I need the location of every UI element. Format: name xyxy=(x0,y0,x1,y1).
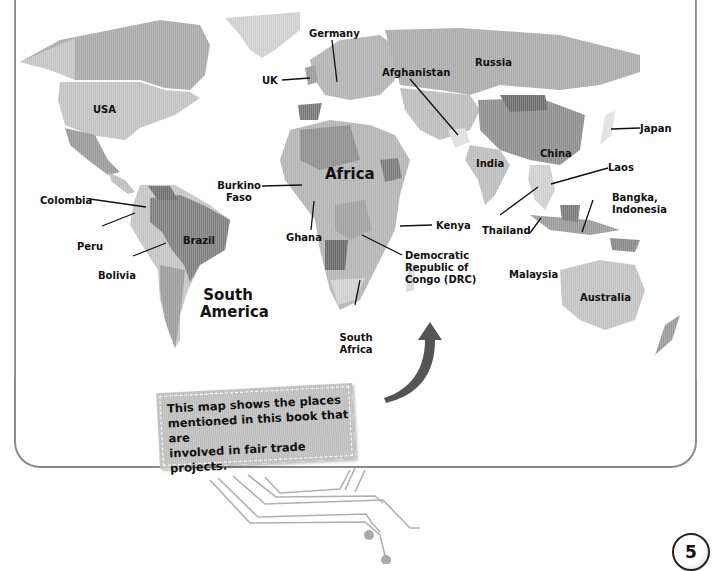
circuit-dot xyxy=(381,555,391,564)
label-bangka-line1: Bangka, xyxy=(612,192,667,204)
label-malaysia: Malaysia xyxy=(509,269,558,281)
label-drc-line3: Congo (DRC) xyxy=(405,274,467,286)
label-burkina-faso: Burkino Faso xyxy=(216,180,262,204)
label-brazil: Brazil xyxy=(183,235,215,247)
label-china: China xyxy=(540,148,572,160)
label-bangka-line2: Indonesia xyxy=(612,204,667,216)
label-india: India xyxy=(476,158,504,170)
label-bangka-indonesia: Bangka, Indonesia xyxy=(612,192,667,216)
label-japan: Japan xyxy=(640,123,672,135)
label-south-america-line1: South xyxy=(200,287,256,304)
label-south-africa-line2: Africa xyxy=(338,344,374,356)
label-burkina-line2: Faso xyxy=(216,192,262,204)
label-africa: Africa xyxy=(325,166,375,183)
label-russia: Russia xyxy=(475,57,512,69)
label-thailand: Thailand xyxy=(482,225,531,237)
label-bolivia: Bolivia xyxy=(98,270,136,282)
label-burkina-line1: Burkino xyxy=(216,180,262,192)
label-drc: Democratic Republic of Congo (DRC) xyxy=(405,250,467,286)
info-callout-box: This map shows the places mentioned in t… xyxy=(156,383,356,469)
label-drc-line1: Democratic xyxy=(405,250,467,262)
label-drc-line2: Republic of xyxy=(405,262,467,274)
label-ghana: Ghana xyxy=(286,232,322,244)
label-afghanistan: Afghanistan xyxy=(382,67,450,79)
label-kenya: Kenya xyxy=(436,220,471,232)
label-germany: Germany xyxy=(309,28,360,40)
label-south-america: South America xyxy=(200,287,256,321)
label-colombia: Colombia xyxy=(40,195,92,207)
label-uk: UK xyxy=(262,75,278,87)
callout-text: This map shows the places mentioned in t… xyxy=(167,392,355,477)
page-number: 5 xyxy=(672,533,710,571)
label-peru: Peru xyxy=(77,241,103,253)
circuit-decoration xyxy=(210,468,420,560)
label-south-africa-line1: South xyxy=(338,332,374,344)
label-south-america-line2: America xyxy=(200,304,256,321)
label-usa: USA xyxy=(93,104,116,116)
label-australia: Australia xyxy=(580,292,631,304)
label-laos: Laos xyxy=(608,162,634,174)
circuit-dot xyxy=(364,530,374,540)
label-south-africa: South Africa xyxy=(338,332,374,356)
